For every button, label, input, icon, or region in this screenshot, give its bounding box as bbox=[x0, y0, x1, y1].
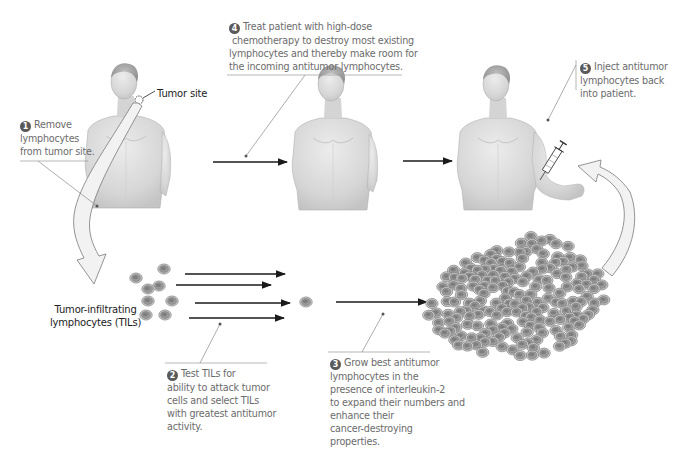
step-5-leader bbox=[548, 65, 576, 120]
step-3-number-badge: 3 bbox=[330, 359, 341, 370]
step-5-number-badge: 5 bbox=[580, 63, 591, 74]
step-1-caption: 1Remove lymphocytes from tumor site. bbox=[20, 118, 95, 158]
selected-til-cell bbox=[300, 297, 312, 307]
tils-label: Tumor-infiltrating lymphocytes (TILs) bbox=[50, 303, 141, 329]
step-4-number-badge: 4 bbox=[229, 23, 240, 34]
step-3-caption: 3Grow best antitumor lymphocytes in the … bbox=[330, 356, 465, 448]
expanded-lymphocyte-mass bbox=[423, 232, 610, 361]
step-5-caption: 5Inject antitumor lymphocytes back into … bbox=[580, 60, 668, 100]
step-4-caption: 4Treat patient with high-dose chemothera… bbox=[229, 20, 418, 73]
tumor-site-leader bbox=[143, 91, 155, 98]
step-1-number-badge: 1 bbox=[20, 121, 31, 132]
step-3-leader bbox=[362, 314, 383, 352]
tumor-site-label: Tumor site bbox=[157, 87, 207, 100]
step-2-caption: 2Test TILs for ability to attack tumor c… bbox=[167, 367, 276, 433]
patient-after-chemo-figure bbox=[292, 65, 378, 210]
step-2-number-badge: 2 bbox=[167, 370, 178, 381]
step-2-leader bbox=[200, 324, 220, 363]
